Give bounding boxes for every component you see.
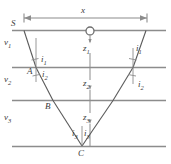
velocity-label-1-sub: 1 bbox=[8, 42, 11, 49]
offset-dimension-label: x bbox=[81, 6, 85, 15]
depth-label-2-sub: 2 bbox=[87, 83, 90, 90]
velocity-label-3-sub: 3 bbox=[8, 117, 11, 124]
depth-label-1: z1 bbox=[83, 44, 90, 55]
depth-label-2: z2 bbox=[83, 79, 90, 90]
angle-label-i1-left-sub: 1 bbox=[44, 59, 47, 66]
seismic-raypath-figure: S x v1 v2 v3 z1 z2 z3 i1 i2 i1 i2 i3 i3 … bbox=[0, 0, 171, 164]
velocity-label-2: v2 bbox=[4, 75, 11, 86]
angle-label-i3-left: i3 bbox=[72, 129, 78, 140]
angle-label-i2-right-sub: 2 bbox=[141, 84, 144, 91]
source-label: S bbox=[11, 19, 16, 28]
depth-label-1-sub: 1 bbox=[87, 48, 90, 55]
receiver-marker bbox=[86, 27, 94, 35]
point-label-a: A bbox=[27, 67, 33, 76]
point-label-c: C bbox=[78, 149, 84, 158]
offset-dimension-arrow bbox=[24, 14, 147, 23]
angle-label-i3-right-sub: 3 bbox=[87, 133, 90, 140]
velocity-label-1: v1 bbox=[4, 38, 11, 49]
angle-label-i3-left-sub: 3 bbox=[75, 133, 78, 140]
depth-label-3-sub: 3 bbox=[87, 117, 90, 124]
angle-label-i2-right: i2 bbox=[138, 80, 144, 91]
angle-label-i1-right: i1 bbox=[136, 44, 142, 55]
angle-label-i2-left: i2 bbox=[42, 70, 48, 81]
angle-label-i3-right: i3 bbox=[84, 129, 90, 140]
angle-label-i1-right-sub: 1 bbox=[139, 48, 142, 55]
velocity-label-2-sub: 2 bbox=[8, 79, 11, 86]
angle-label-i1-left: i1 bbox=[41, 55, 47, 66]
point-label-b: B bbox=[45, 102, 51, 111]
angle-label-i2-left-sub: 2 bbox=[45, 74, 48, 81]
velocity-label-3: v3 bbox=[4, 113, 11, 124]
depth-label-3: z3 bbox=[83, 113, 90, 124]
